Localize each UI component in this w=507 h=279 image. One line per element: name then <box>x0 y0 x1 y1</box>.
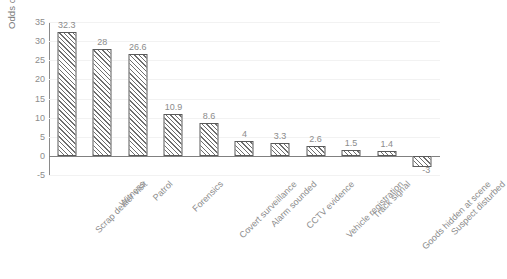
bar-value-label: 1.5 <box>345 138 358 148</box>
bar-slot: 26.6 <box>120 22 156 175</box>
y-tick-label: 5 <box>5 132 45 142</box>
bar-value-label: 1.4 <box>380 139 393 149</box>
bar-value-label: 2.6 <box>309 134 322 144</box>
bar-slot: 28 <box>85 22 121 175</box>
bar[interactable] <box>235 141 254 156</box>
y-tick-label: 15 <box>5 94 45 104</box>
bar-value-label: 32.3 <box>58 20 76 30</box>
x-axis-tick-label: Goods hidden at scene <box>420 179 493 252</box>
x-axis-tick-label: Patrol <box>151 179 175 203</box>
bar-slot: 32.3 <box>49 22 85 175</box>
bar-slot: 2.6 <box>298 22 334 175</box>
bar-slot: 1.4 <box>369 22 405 175</box>
bar[interactable] <box>306 146 325 156</box>
bar-value-label: 8.6 <box>203 111 216 121</box>
bar[interactable] <box>57 32 76 156</box>
y-tick-label: 0 <box>5 151 45 161</box>
bar-slot: 10.9 <box>156 22 192 175</box>
x-axis-tick-label: Witness <box>118 179 148 209</box>
bar[interactable] <box>271 143 290 156</box>
bar-slot: 1.5 <box>333 22 369 175</box>
bar[interactable] <box>342 150 361 156</box>
bar-value-label: 26.6 <box>129 42 147 52</box>
bar[interactable] <box>128 54 147 156</box>
x-axis-tick-label: Forensics <box>191 179 226 214</box>
bars-group: 32.32826.610.98.643.32.61.51.4-3 <box>49 22 440 175</box>
bar-slot: 4 <box>227 22 263 175</box>
y-tick-label: -5 <box>5 170 45 180</box>
y-tick-label: 30 <box>5 36 45 46</box>
bar[interactable] <box>164 114 183 156</box>
bar-slot: 8.6 <box>191 22 227 175</box>
bar-value-label: -3 <box>422 165 442 175</box>
bar-value-label: 3.3 <box>274 131 287 141</box>
bar-slot: 3.3 <box>262 22 298 175</box>
y-tick-label: 35 <box>5 17 45 27</box>
y-tick-label: 10 <box>5 113 45 123</box>
bar[interactable] <box>199 123 218 156</box>
bar-slot: -3 <box>404 22 440 175</box>
y-tick-label: 25 <box>5 55 45 65</box>
x-axis-labels: Scrap dealer visitWitnessPatrolForensics… <box>49 176 440 276</box>
bar-value-label: 28 <box>97 37 107 47</box>
bar-value-label: 10.9 <box>165 102 183 112</box>
y-axis-ticks: 35302520151050-5 <box>0 22 45 175</box>
bar-value-label: 4 <box>242 129 247 139</box>
plot-area: 32.32826.610.98.643.32.61.51.4-3 <box>49 22 440 175</box>
bar[interactable] <box>93 49 112 156</box>
bar[interactable] <box>377 151 396 156</box>
y-tick-label: 20 <box>5 74 45 84</box>
